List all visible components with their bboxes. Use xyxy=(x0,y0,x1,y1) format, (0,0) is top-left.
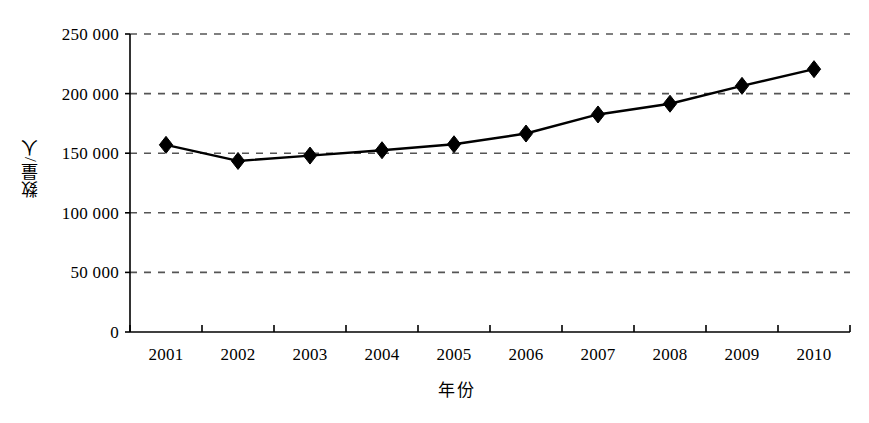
x-axis-tick-label: 2006 xyxy=(508,346,543,363)
data-line xyxy=(166,69,814,161)
data-point-marker xyxy=(375,142,388,159)
data-point-marker xyxy=(807,61,820,78)
data-point-marker xyxy=(591,106,604,123)
data-point-marker xyxy=(519,125,532,142)
y-axis-title: 数量/人 xyxy=(22,138,48,198)
x-axis-title: 年份 xyxy=(0,376,869,401)
data-point-marker xyxy=(447,136,460,153)
x-axis-ticks xyxy=(130,325,850,332)
x-axis-title-text: 年份 xyxy=(394,381,476,400)
data-point-marker xyxy=(735,77,748,94)
data-point-marker xyxy=(303,147,316,164)
line-chart: 050 000100 000150 000200 000250 000 2001… xyxy=(0,0,869,423)
x-axis-tick-label: 2010 xyxy=(796,346,831,363)
y-axis-tick-label: 250 000 xyxy=(62,26,119,43)
data-point-marker xyxy=(159,136,172,153)
y-axis-tick-label: 100 000 xyxy=(62,204,119,221)
y-axis-tick-label: 0 xyxy=(110,324,119,341)
series-line xyxy=(166,69,814,161)
x-axis-tick-label: 2009 xyxy=(724,346,759,363)
x-axis-tick-label: 2002 xyxy=(220,346,255,363)
data-point-marker xyxy=(663,95,676,112)
x-axis-tick-label: 2001 xyxy=(148,346,183,363)
x-axis-tick-label: 2003 xyxy=(292,346,327,363)
y-axis-tick-label: 150 000 xyxy=(62,145,119,162)
y-axis-tick-label: 50 000 xyxy=(70,264,119,281)
x-axis-tick-label: 2008 xyxy=(652,346,687,363)
y-axis-tick-label: 200 000 xyxy=(62,85,119,102)
x-axis-tick-label: 2005 xyxy=(436,346,471,363)
x-axis-tick-label: 2004 xyxy=(364,346,399,363)
data-point-marker xyxy=(231,152,244,169)
x-axis-tick-label: 2007 xyxy=(580,346,615,363)
